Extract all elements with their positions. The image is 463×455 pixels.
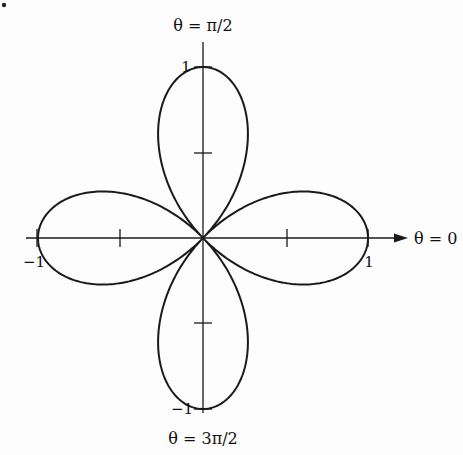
label-theta-3pi-over-2: θ = 3π/2	[168, 429, 237, 448]
polar-rose-diagram: θ = π/2 θ = 3π/2 θ = 0 1 −1 1 −1	[0, 0, 463, 455]
label-x-pos-1: 1	[364, 253, 374, 271]
bullet-dot	[2, 3, 6, 7]
label-theta-pi-over-2: θ = π/2	[173, 16, 232, 35]
label-y-neg-1: −1	[171, 400, 193, 418]
label-y-pos-1: 1	[181, 58, 191, 76]
label-theta-0: θ = 0	[414, 229, 457, 248]
arrow-right-icon	[394, 234, 408, 243]
label-x-neg-1: −1	[23, 253, 45, 271]
